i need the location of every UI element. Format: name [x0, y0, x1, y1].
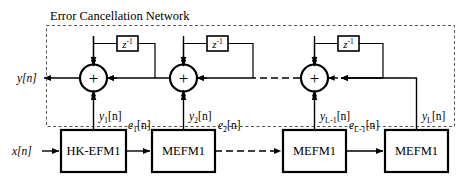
- error-label-L-1: eL-1[n]: [349, 119, 379, 134]
- block-mefm1-2-label: MEFM1: [162, 144, 205, 158]
- diagram-canvas: Error Cancellation Network HK-EFM1 MEFM1…: [0, 0, 466, 181]
- feedback-3-in: [315, 44, 339, 67]
- summing-node-2-symbol: +: [179, 69, 189, 88]
- block-mefm1-4-label: MEFM1: [395, 144, 438, 158]
- stage-output-label-yL1: yL-1[n]: [319, 110, 350, 125]
- stage-output-label-y2: y2[n]: [188, 110, 212, 125]
- feedback-2-out: [228, 44, 253, 79]
- error-label-2: e2[n]: [218, 119, 241, 134]
- feedback-3-out: [359, 44, 383, 79]
- feedback-1-in: [94, 44, 118, 67]
- network-title: Error Cancellation Network: [50, 9, 190, 23]
- stage-output-label-yL: yL[n]: [421, 110, 445, 125]
- block-mefm1-3-label: MEFM1: [293, 144, 336, 158]
- input-signal-label: x[n]: [11, 145, 32, 157]
- output-signal-label: y[n]: [16, 72, 37, 85]
- summing-node-1-symbol: +: [89, 69, 99, 88]
- stage-output-label-y1: y1[n]: [98, 110, 122, 125]
- error-cancellation-network-diagram: Error Cancellation Network HK-EFM1 MEFM1…: [0, 0, 466, 181]
- summing-node-3-symbol: +: [310, 69, 320, 88]
- feedback-1-out: [138, 44, 155, 79]
- feedback-2-in: [184, 44, 208, 67]
- error-label-1: e1[n]: [128, 119, 151, 134]
- block-hk-efm1-label: HK-EFM1: [66, 144, 120, 158]
